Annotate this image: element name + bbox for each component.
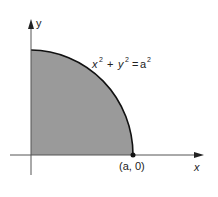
x-axis-label: x [193, 161, 200, 173]
svg-text:2: 2 [147, 56, 151, 63]
svg-text:+: + [107, 58, 113, 70]
curve-equation: x 2 + y 2 = a 2 [91, 56, 151, 70]
point-label: (a, 0) [119, 160, 145, 172]
x-axis-arrow-icon [194, 152, 204, 158]
svg-text:2: 2 [99, 56, 103, 63]
svg-text:2: 2 [125, 56, 129, 63]
svg-text:y: y [117, 58, 125, 70]
point-a0 [131, 153, 136, 158]
svg-text:x: x [91, 58, 98, 70]
svg-text:=: = [132, 58, 138, 70]
svg-text:a: a [140, 58, 147, 70]
y-axis-label: y [36, 17, 42, 29]
quarter-circle-diagram: y x (a, 0) x 2 + y 2 = a 2 [0, 0, 218, 197]
y-axis-arrow-icon [28, 19, 34, 29]
